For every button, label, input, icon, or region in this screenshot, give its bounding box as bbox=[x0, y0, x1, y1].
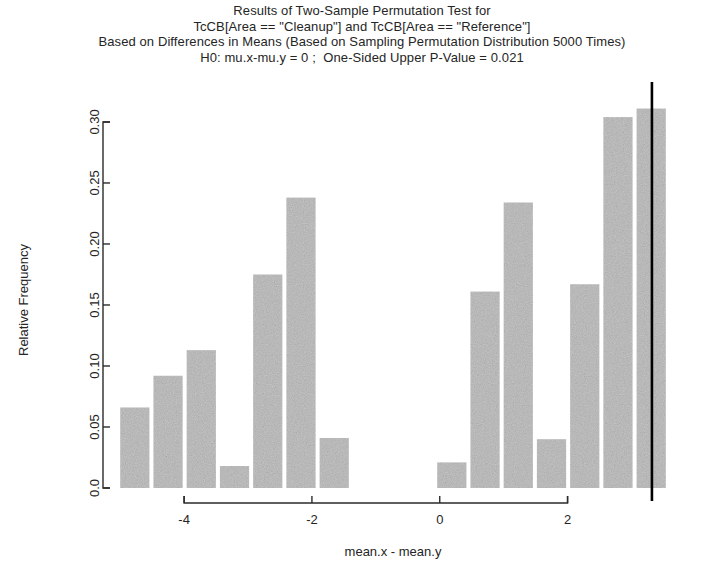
x-tick-label: 0 bbox=[436, 512, 443, 527]
histogram-bar bbox=[437, 462, 466, 488]
y-tick-label: 0.05 bbox=[87, 414, 102, 439]
y-tick-label: 0.10 bbox=[87, 353, 102, 378]
chart-canvas: 0.00.050.100.150.200.250.30 -4-202 mean.… bbox=[0, 0, 724, 566]
y-tick-label: 0.0 bbox=[87, 479, 102, 497]
histogram-bar bbox=[504, 202, 533, 488]
histogram-bar bbox=[253, 274, 282, 488]
histogram-bars bbox=[120, 109, 666, 488]
histogram-bar bbox=[153, 376, 182, 488]
histogram-bar bbox=[537, 439, 566, 488]
x-tick-label: 2 bbox=[564, 512, 571, 527]
histogram-bar bbox=[570, 284, 599, 488]
y-tick-label: 0.25 bbox=[87, 170, 102, 195]
x-tick-label: -2 bbox=[306, 512, 318, 527]
histogram-bar bbox=[320, 438, 349, 488]
y-tick-label: 0.15 bbox=[87, 292, 102, 317]
histogram-bar bbox=[187, 350, 216, 488]
histogram-bar bbox=[220, 466, 249, 488]
x-axis-label: mean.x - mean.y bbox=[345, 544, 442, 559]
permutation-test-chart: Results of Two-Sample Permutation Test f… bbox=[0, 0, 724, 566]
y-tick-label: 0.30 bbox=[87, 109, 102, 134]
y-axis: 0.00.050.100.150.200.250.30 bbox=[87, 109, 110, 497]
x-axis: -4-202 bbox=[178, 496, 571, 527]
y-tick-label: 0.20 bbox=[87, 231, 102, 256]
x-tick-label: -4 bbox=[178, 512, 190, 527]
histogram-bar bbox=[120, 407, 149, 488]
histogram-bar bbox=[286, 198, 315, 488]
y-axis-label: Relative Frequency bbox=[16, 244, 31, 356]
histogram-bar bbox=[603, 117, 632, 488]
histogram-bar bbox=[470, 292, 499, 488]
